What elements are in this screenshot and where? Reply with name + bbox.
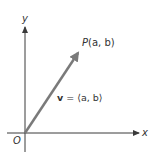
vector-label: v = ⟨a, b⟩ [57, 92, 103, 103]
vector-diagram: y x O P(a, b) v = ⟨a, b⟩ [0, 0, 158, 157]
vector-components: ⟨a, b⟩ [77, 92, 102, 103]
y-axis-label: y [21, 13, 29, 24]
vector-equals: = [63, 92, 77, 103]
point-label: P(a, b) [82, 37, 115, 48]
point-coords: (a, b) [88, 37, 115, 48]
x-axis-label: x [141, 127, 148, 138]
origin-label: O [13, 135, 21, 146]
